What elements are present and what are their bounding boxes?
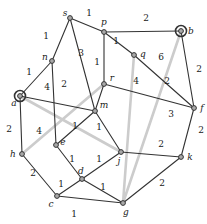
- edge-weight-a-h: 2: [6, 124, 12, 134]
- node-label-g: g: [123, 207, 129, 217]
- node-b: [179, 29, 184, 34]
- edge-weight-q-g: 4: [133, 76, 139, 86]
- edge-weight-p-q: 1: [113, 36, 119, 46]
- node-label-a: a: [11, 98, 16, 108]
- edge-a-h: [20, 96, 22, 154]
- edge-weight-c-g: 1: [71, 209, 77, 219]
- edge-s-p: [70, 18, 104, 32]
- node-s: [68, 16, 73, 21]
- node-label-k: k: [187, 152, 192, 162]
- node-q: [132, 53, 137, 58]
- node-m: [93, 109, 98, 114]
- edge-b-f: [181, 31, 194, 108]
- node-label-e: e: [60, 137, 65, 147]
- edge-weight-s-m: 3: [78, 48, 84, 58]
- edge-p-b: [104, 31, 181, 32]
- edge-weight-d-g: 1: [100, 182, 106, 192]
- edge-weight-q-f: 2: [164, 76, 170, 86]
- node-label-c: c: [48, 199, 53, 209]
- node-label-p: p: [101, 17, 107, 27]
- node-label-q: q: [140, 49, 146, 59]
- edge-p-q: [104, 32, 134, 55]
- edge-s-n: [52, 18, 70, 61]
- node-d: [80, 177, 85, 182]
- node-p: [102, 30, 107, 35]
- node-g: [121, 201, 126, 206]
- edge-weight-h-r: 4: [36, 126, 42, 136]
- edge-weight-j-k: 2: [158, 139, 164, 149]
- edge-f-k: [181, 108, 194, 157]
- edge-weight-r-f: 3: [168, 109, 174, 119]
- node-label-s: s: [63, 8, 68, 18]
- node-label-r: r: [110, 73, 115, 83]
- node-label-n: n: [42, 52, 48, 62]
- edge-h-c: [22, 154, 57, 196]
- node-h: [20, 152, 25, 157]
- edge-weight-b-g: 6: [158, 52, 164, 62]
- node-a: [18, 94, 23, 99]
- edge-weight-f-k: 2: [198, 125, 204, 135]
- edge-weight-d-j: 1: [96, 154, 102, 164]
- edge-weight-n-a: 1: [26, 67, 32, 77]
- node-f: [192, 106, 197, 111]
- edge-weight-m-j: 1: [96, 122, 102, 132]
- node-c: [55, 194, 60, 199]
- node-label-b: b: [188, 26, 194, 36]
- graph-figure: 113211221242311222111112644spbnqramfehjk…: [0, 0, 207, 224]
- edge-weight-s-n: 1: [43, 31, 49, 41]
- node-label-f: f: [199, 103, 205, 113]
- node-k: [179, 155, 184, 160]
- edge-weight-p-b: 2: [143, 13, 149, 23]
- edge-weight-k-g: 2: [159, 178, 165, 188]
- edge-weight-m-e: 1: [72, 121, 78, 131]
- edge-weight-e-d: 1: [69, 154, 75, 164]
- edge-weight-h-c: 2: [30, 168, 36, 178]
- edge-j-k: [121, 152, 181, 157]
- edge-weight-a-m: 4: [44, 82, 50, 92]
- edge-weight-n-e: 2: [61, 79, 67, 89]
- edge-weight-s-p: 1: [86, 8, 92, 18]
- node-label-h: h: [10, 149, 16, 159]
- graph-canvas: 113211221242311222111112644spbnqramfehjk…: [0, 0, 207, 224]
- edge-weight-b-f: 2: [196, 64, 202, 74]
- node-j: [119, 150, 124, 155]
- edge-weight-p-r: 1: [94, 57, 100, 67]
- node-label-d: d: [78, 166, 84, 176]
- node-r: [102, 82, 107, 87]
- node-n: [50, 59, 55, 64]
- edge-s-m: [70, 18, 95, 111]
- edge-weight-c-d: 1: [58, 179, 64, 189]
- node-label-m: m: [100, 100, 109, 110]
- node-label-j: j: [116, 156, 121, 166]
- node-e: [54, 143, 59, 148]
